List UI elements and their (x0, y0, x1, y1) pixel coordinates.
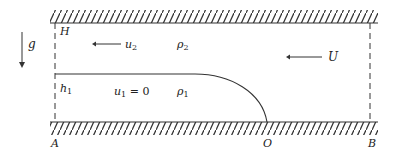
interface-height-label: h1 (60, 82, 72, 96)
point-a-label: A (50, 137, 59, 150)
upper-velocity-label: u2 (125, 38, 137, 52)
bottom-wall (50, 122, 378, 135)
top-wall (50, 10, 378, 23)
point-o-label: O (263, 137, 272, 150)
upper-velocity-arrow-icon (92, 42, 121, 47)
lower-velocity-label: u1 = 0 (114, 85, 149, 99)
lower-density-label: ρ1 (176, 85, 189, 99)
upper-density-label: ρ2 (176, 38, 189, 52)
channel-diagram: g H u2 ρ2 U h1 u1 = 0 ρ1 A O B (0, 0, 395, 157)
far-field-velocity-label: U (328, 50, 339, 64)
point-b-label: B (367, 137, 376, 150)
gravity-label: g (28, 37, 36, 51)
far-field-velocity-arrow-icon (286, 55, 322, 60)
interface-curve (55, 74, 267, 122)
height-h-label: H (59, 25, 70, 38)
gravity-arrow-icon (19, 32, 25, 68)
